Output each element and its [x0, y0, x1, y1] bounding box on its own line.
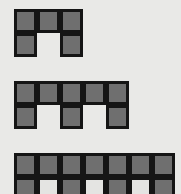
filled-square-cell	[14, 9, 37, 33]
filled-square-cell	[14, 177, 37, 194]
filled-square-cell	[152, 153, 175, 177]
empty-square-cell	[83, 177, 106, 194]
filled-square-cell	[14, 33, 37, 57]
filled-square-cell	[60, 9, 83, 33]
filled-square-cell	[60, 177, 83, 194]
filled-square-cell	[83, 153, 106, 177]
filled-square-cell	[60, 33, 83, 57]
filled-square-cell	[129, 153, 152, 177]
filled-square-cell	[14, 105, 37, 129]
filled-square-cell	[60, 81, 83, 105]
empty-square-cell	[37, 177, 60, 194]
filled-square-cell	[83, 81, 106, 105]
filled-square-cell	[152, 177, 175, 194]
filled-square-cell	[106, 81, 129, 105]
filled-square-cell	[37, 153, 60, 177]
filled-square-cell	[60, 153, 83, 177]
diagram-canvas	[0, 0, 181, 194]
filled-square-cell	[60, 105, 83, 129]
empty-square-cell	[129, 177, 152, 194]
filled-square-cell	[37, 9, 60, 33]
filled-square-cell	[14, 153, 37, 177]
filled-square-cell	[106, 177, 129, 194]
filled-square-cell	[106, 153, 129, 177]
filled-square-cell	[14, 81, 37, 105]
filled-square-cell	[37, 81, 60, 105]
filled-square-cell	[106, 105, 129, 129]
